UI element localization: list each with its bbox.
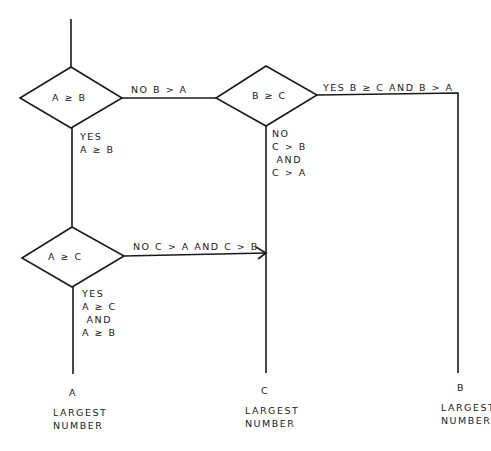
output-letter: C: [240, 384, 290, 397]
output-letter: B: [436, 381, 486, 394]
decision-label-d3: A ≥ C: [48, 250, 83, 263]
decision-label-d1: A ≥ B: [52, 91, 87, 104]
output-letter: A: [48, 386, 98, 399]
edge-label-d1-yes: YES A ≥ B: [80, 130, 115, 156]
edge-label-d3-no: NO C > A AND C > B: [133, 240, 259, 253]
output-b: B LARGEST NUMBER: [436, 381, 486, 427]
edge-label-d2-yes: YES B ≥ C AND B > A: [323, 81, 453, 94]
edge-label-d3-yes: YES A ≥ C AND A ≥ B: [82, 287, 117, 339]
edge-d3-no: [124, 253, 266, 256]
edge-d2-yes: [317, 93, 458, 373]
edge-label-d1-no: NO B > A: [131, 83, 188, 96]
decision-label-d2: B ≥ C: [252, 89, 287, 102]
output-c: C LARGEST NUMBER: [240, 384, 290, 430]
edge-label-d2-no: NO C > B AND C > A: [272, 127, 307, 179]
output-a: A LARGEST NUMBER: [48, 386, 98, 432]
